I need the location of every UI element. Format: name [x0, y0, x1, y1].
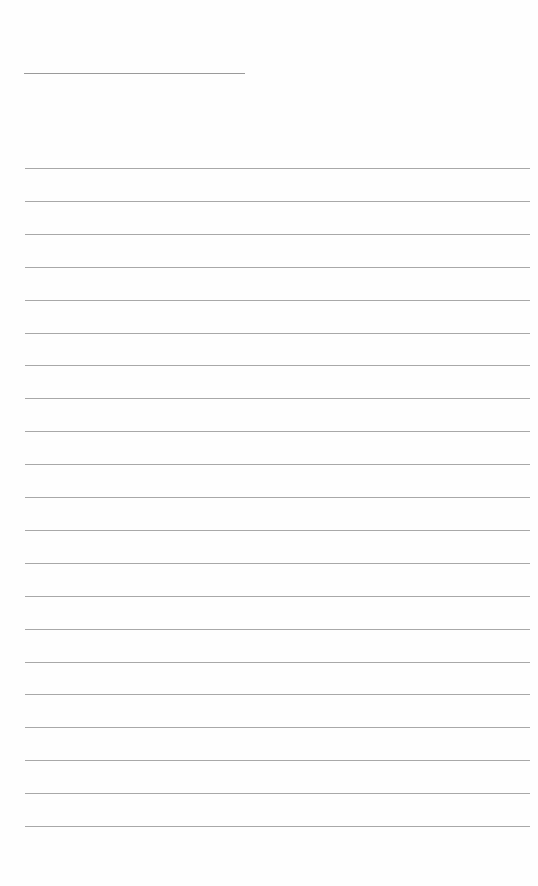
ruled-line: [25, 168, 530, 169]
ruled-line: [25, 300, 530, 301]
ruled-line: [25, 234, 530, 235]
ruled-line: [25, 333, 530, 334]
ruled-line: [25, 793, 530, 794]
ruled-line: [25, 431, 530, 432]
ruled-line: [25, 365, 530, 366]
ruled-line: [25, 727, 530, 728]
ruled-line: [25, 662, 530, 663]
header-line: [24, 73, 245, 74]
ruled-line: [25, 826, 530, 827]
ruled-line: [25, 694, 530, 695]
ruled-line: [25, 398, 530, 399]
ruled-line: [25, 201, 530, 202]
ruled-line: [25, 629, 530, 630]
ruled-line: [25, 563, 530, 564]
ruled-line: [25, 760, 530, 761]
ruled-line: [25, 596, 530, 597]
lined-page: [0, 0, 538, 886]
ruled-line: [25, 464, 530, 465]
ruled-line: [25, 530, 530, 531]
ruled-line: [25, 267, 530, 268]
ruled-line: [25, 497, 530, 498]
